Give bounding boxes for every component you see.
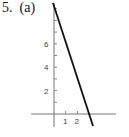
x-tick-label: 2 — [75, 117, 80, 126]
y-tick-label: 4 — [44, 63, 49, 72]
y-tick-label: 6 — [44, 40, 49, 49]
x-tick-label: 1 — [63, 117, 68, 126]
data-line — [53, 3, 93, 126]
line-plot: 6 4 2 1 2 — [0, 0, 129, 137]
y-tick-label: 2 — [44, 87, 49, 96]
